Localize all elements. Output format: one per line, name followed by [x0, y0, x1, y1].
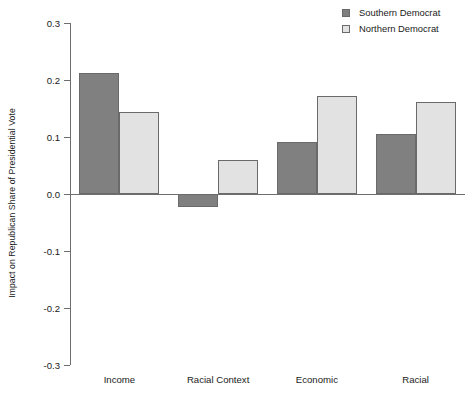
bar-racial-context-southern-democrat [178, 194, 218, 207]
y-axis-tick-label: 0.1 [0, 132, 60, 143]
legend-item-label: Southern Democrat [359, 7, 440, 18]
bar-racial-northern-democrat [416, 102, 456, 194]
x-axis-label: Racial [402, 374, 429, 385]
bar-income-northern-democrat [119, 112, 159, 194]
y-axis-title: Impact on Republican Share of Presidenti… [0, 0, 24, 406]
y-axis-tick-label: 0.2 [0, 75, 60, 86]
bar-chart: Impact on Republican Share of Presidenti… [0, 0, 469, 406]
legend-item-southern-democrat: Southern Democrat [342, 6, 440, 19]
x-axis-label: Economic [296, 374, 338, 385]
plot-area [70, 23, 465, 365]
bar-racial-southern-democrat [376, 134, 416, 194]
legend-item-label: Northern Democrat [359, 23, 439, 34]
x-axis-label: Racial Context [187, 374, 249, 385]
y-axis-tick-label: -0.1 [0, 246, 60, 257]
bar-economic-northern-democrat [317, 96, 357, 194]
y-axis-tick-label: 0.3 [0, 18, 60, 29]
legend-item-northern-democrat: Northern Democrat [342, 22, 440, 35]
bar-income-southern-democrat [79, 73, 119, 194]
y-axis-tick-label: -0.2 [0, 303, 60, 314]
legend-swatch-icon [342, 9, 350, 17]
x-axis-label: Income [104, 374, 135, 385]
y-axis-tick-label: 0.0 [0, 189, 60, 200]
bar-racial-context-northern-democrat [218, 160, 258, 194]
legend: Southern DemocratNorthern Democrat [342, 6, 440, 38]
bar-economic-southern-democrat [277, 142, 317, 194]
legend-swatch-icon [342, 25, 350, 33]
y-axis-tick [64, 365, 70, 366]
y-axis-tick-label: -0.3 [0, 360, 60, 371]
